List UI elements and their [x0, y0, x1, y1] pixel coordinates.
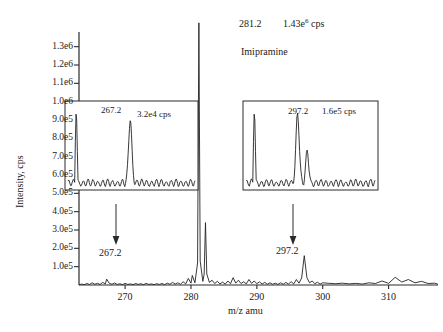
- main-peak-intensity-label: 1.43e6 cps: [283, 19, 324, 29]
- right-inset-value-label: 1.6e5 cps: [322, 107, 356, 116]
- annotation-arrows: [113, 204, 297, 245]
- x-tick-label: 290: [237, 292, 277, 302]
- x-axis-title: m/z amu: [228, 306, 263, 316]
- main-peak-intensity-unit: cps: [308, 18, 324, 29]
- left-arrow-label: 267.2: [99, 248, 122, 258]
- y-tick-label: 3.0e5: [27, 225, 73, 235]
- y-axis-title: Intensity, cps: [15, 155, 25, 208]
- y-tick-label: 1.0e6: [27, 97, 73, 107]
- right-inset-group: [243, 101, 378, 190]
- y-tick-label: 6.0e5: [27, 170, 73, 180]
- right-inset-frame: [243, 101, 378, 190]
- right-arrow-label: 297.2: [276, 246, 299, 256]
- y-tick-label: 1.0e5: [27, 262, 73, 272]
- y-tick-label: 1.2e6: [27, 60, 73, 70]
- x-tick-label: 280: [171, 292, 211, 302]
- y-tick-label: 4.0e5: [27, 207, 73, 217]
- main-peak-mz-label: 281.2: [239, 19, 262, 29]
- main-peak-intensity-mantissa: 1.43e: [283, 18, 305, 29]
- left-inset-peak-label: 267.2: [101, 106, 121, 115]
- left-arrow-head: [113, 236, 120, 245]
- left-inset-frame: [65, 101, 198, 190]
- right-arrow-head: [290, 236, 297, 245]
- y-tick-label: 9.0e5: [27, 115, 73, 125]
- left-inset-group: [65, 101, 198, 190]
- y-tick-label: 8.0e5: [27, 133, 73, 143]
- x-tick-label: 270: [105, 292, 145, 302]
- y-tick-label: 1.3e6: [27, 42, 73, 52]
- x-tick-label: 310: [369, 292, 409, 302]
- y-tick-label: 1.1e6: [27, 78, 73, 88]
- left-inset-value-label: 3.2e4 cps: [137, 110, 171, 119]
- y-tick-label: 2.0e5: [27, 243, 73, 253]
- y-tick-label: 5.0e5: [27, 188, 73, 198]
- compound-name-label: Imipramine: [241, 47, 288, 57]
- y-tick-label: 7.0e5: [27, 152, 73, 162]
- x-tick-label: 300: [303, 292, 343, 302]
- mass-spectrum-figure: 1.0e52.0e53.0e54.0e55.0e56.0e57.0e58.0e5…: [0, 0, 443, 332]
- right-inset-peak-label: 297.2: [288, 107, 308, 116]
